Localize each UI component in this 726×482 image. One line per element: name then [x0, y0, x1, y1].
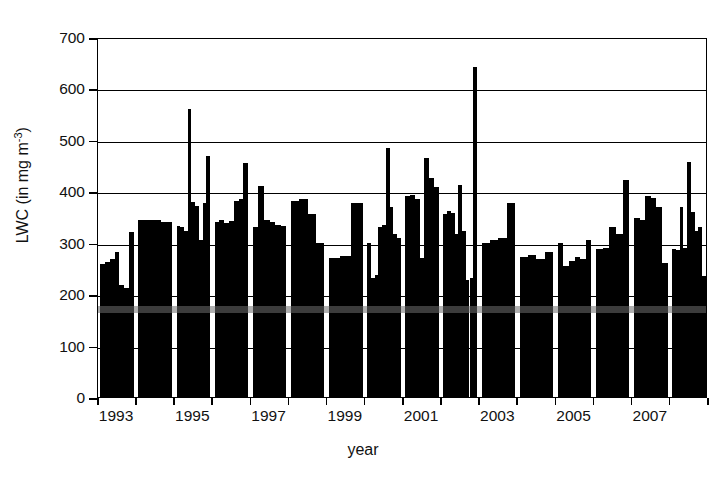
bar — [507, 203, 515, 397]
x-axis-tick — [707, 398, 709, 405]
bar — [498, 238, 506, 397]
y-axis-tick-label: 500 — [37, 133, 85, 149]
y-axis-title-text: LWC (in mg m — [14, 142, 31, 243]
bar — [528, 255, 536, 397]
x-axis-tick — [326, 398, 328, 405]
bar — [351, 203, 362, 397]
x-axis-tick — [135, 398, 137, 405]
bar — [490, 240, 498, 397]
x-axis-tick-label: 2007 — [620, 408, 680, 424]
bar — [603, 248, 610, 397]
plot-area — [97, 38, 707, 398]
bar — [536, 259, 544, 397]
bar — [545, 252, 553, 397]
y-axis-tick — [89, 89, 97, 91]
y-axis-tick — [89, 347, 97, 349]
gridline-600 — [98, 90, 706, 91]
x-axis-tick — [440, 398, 442, 405]
y-axis-title-tail: ) — [14, 127, 31, 132]
y-axis-tick — [89, 398, 97, 400]
y-axis-tick-label: 700 — [37, 30, 85, 46]
x-axis-tick-label: 2003 — [467, 408, 527, 424]
bar — [482, 243, 490, 397]
bar — [397, 238, 401, 397]
y-axis-tick-label: 300 — [37, 236, 85, 252]
x-axis-tick-label: 1999 — [315, 408, 375, 424]
x-axis-tick-label: 2005 — [544, 408, 604, 424]
bar — [340, 256, 351, 397]
x-axis-tick-label: 2001 — [391, 408, 451, 424]
x-axis-tick — [669, 398, 671, 405]
x-axis-tick — [288, 398, 290, 405]
bar — [586, 240, 592, 397]
y-axis-tick-label: 600 — [37, 81, 85, 97]
y-axis-tick — [89, 192, 97, 194]
x-axis-tick — [364, 398, 366, 405]
y-axis-title-exponent: -3 — [12, 132, 24, 142]
y-axis-tick — [89, 244, 97, 246]
y-axis-tick-label: 400 — [37, 184, 85, 200]
x-axis-tick — [478, 398, 480, 405]
x-axis-tick — [97, 398, 99, 405]
bar — [329, 258, 340, 397]
y-axis-tick — [89, 141, 97, 143]
bar — [291, 201, 299, 398]
x-axis-tick-label: 1997 — [239, 408, 299, 424]
x-axis-tick — [516, 398, 518, 405]
y-axis-tick — [89, 38, 97, 40]
bar — [316, 243, 324, 397]
bar — [129, 232, 134, 397]
bar — [434, 187, 439, 397]
x-axis-tick — [593, 398, 595, 405]
bar — [520, 257, 528, 397]
x-axis-tick-label: 1993 — [86, 408, 146, 424]
x-axis-tick — [402, 398, 404, 405]
y-axis-tick — [89, 295, 97, 297]
x-axis-tick — [631, 398, 633, 405]
x-axis-tick — [555, 398, 557, 405]
y-axis-tick-label: 100 — [37, 339, 85, 355]
x-axis-tick — [211, 398, 213, 405]
x-axis-tick-label: 1995 — [162, 408, 222, 424]
bar — [243, 163, 248, 397]
bar — [473, 67, 477, 397]
bar — [616, 234, 623, 398]
y-axis-title: LWC (in mg m-3) — [12, 35, 32, 335]
x-axis-tick — [250, 398, 252, 405]
x-axis-title: year — [0, 441, 726, 459]
x-axis-tick — [173, 398, 175, 405]
bar — [206, 156, 210, 397]
bar — [662, 263, 668, 397]
y-axis-tick-label: 0 — [37, 390, 85, 406]
bar — [596, 249, 603, 397]
bar — [623, 180, 630, 397]
y-axis-tick-label: 200 — [37, 287, 85, 303]
bar — [299, 199, 307, 398]
bar — [702, 276, 706, 397]
mean-band — [98, 306, 706, 313]
chart-figure: 0100200300400500600700 LWC (in mg m-3) 1… — [0, 0, 726, 482]
